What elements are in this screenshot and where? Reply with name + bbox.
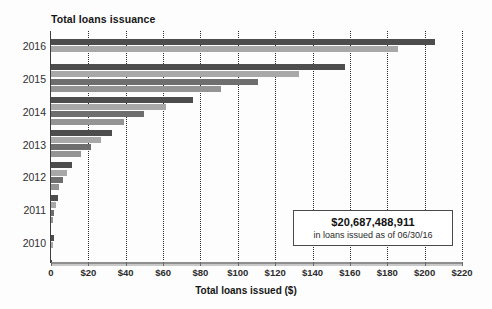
annotation-caption: in loans issued as of 06/30/16 (313, 230, 432, 240)
bar (51, 71, 299, 77)
y-tick-label: 2011 (6, 204, 46, 216)
y-tick-label: 2016 (6, 40, 46, 52)
y-tick-label: 2010 (6, 237, 46, 249)
x-tick-mark (88, 262, 89, 266)
x-tick-mark (275, 262, 276, 266)
y-tick-label: 2014 (6, 106, 46, 118)
x-axis-line (51, 262, 463, 264)
x-tick-mark (200, 262, 201, 266)
bar (51, 97, 193, 103)
y-tick-label: 2015 (6, 73, 46, 85)
annotation-callout: $20,687,488,911 in loans issued as of 06… (293, 210, 453, 246)
bar (51, 46, 398, 52)
x-tick-label: 0 (48, 267, 53, 278)
x-tick-label: $220 (451, 267, 472, 278)
x-tick-label: $180 (377, 267, 398, 278)
x-tick-label: $120 (265, 267, 286, 278)
gridline (462, 31, 463, 260)
bar (51, 64, 345, 70)
x-tick-label: $80 (193, 267, 209, 278)
bar (51, 162, 72, 168)
x-tick-label: $100 (227, 267, 248, 278)
bar (51, 86, 221, 92)
x-tick-mark (51, 262, 52, 266)
y-tick-label: 2013 (6, 139, 46, 151)
x-tick-mark (313, 262, 314, 266)
annotation-amount: $20,687,488,911 (331, 216, 414, 228)
y-tick-label: 2012 (6, 171, 46, 183)
bar (51, 184, 59, 190)
bar (51, 39, 435, 45)
bar (51, 79, 258, 85)
x-axis-title: Total loans issued ($) (0, 285, 492, 296)
bar (51, 210, 54, 216)
x-tick-mark (126, 262, 127, 266)
x-tick-mark (350, 262, 351, 266)
bar-chart: Total loans issuance 0$20$40$60$80$100$1… (0, 0, 492, 309)
bar (51, 130, 112, 136)
x-tick-label: $20 (80, 267, 96, 278)
x-tick-mark (462, 262, 463, 266)
bar (51, 195, 58, 201)
x-tick-label: $140 (302, 267, 323, 278)
x-tick-mark (238, 262, 239, 266)
bar (51, 202, 56, 208)
bar (51, 119, 124, 125)
bar (51, 151, 81, 157)
x-tick-label: $200 (414, 267, 435, 278)
x-tick-mark (387, 262, 388, 266)
bar (51, 242, 53, 248)
chart-title: Total loans issuance (51, 13, 156, 25)
x-tick-mark (425, 262, 426, 266)
bar (51, 144, 91, 150)
bar (51, 111, 144, 117)
bar (51, 235, 54, 241)
bar (51, 177, 63, 183)
x-tick-label: $160 (339, 267, 360, 278)
bar (51, 217, 53, 223)
bar (51, 137, 101, 143)
bar (51, 170, 67, 176)
x-tick-mark (163, 262, 164, 266)
x-tick-label: $40 (118, 267, 134, 278)
bar (51, 104, 166, 110)
x-tick-label: $60 (155, 267, 171, 278)
